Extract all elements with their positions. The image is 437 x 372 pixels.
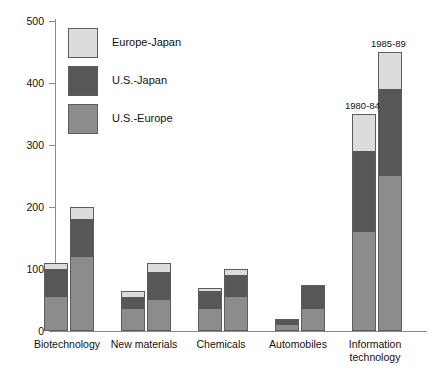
segment-us-japan bbox=[44, 269, 68, 297]
x-label-information-technology: Information technology bbox=[330, 338, 420, 363]
bar-chemicals-1985-89 bbox=[224, 269, 248, 331]
segment-us-japan bbox=[224, 275, 248, 297]
segment-us-japan bbox=[352, 151, 376, 232]
segment-us-europe bbox=[301, 309, 325, 331]
legend-swatch-europe-japan bbox=[68, 28, 98, 58]
bar-automobiles-1980-84 bbox=[275, 319, 299, 331]
y-tick-300 bbox=[49, 145, 55, 146]
segment-us-europe bbox=[275, 325, 299, 331]
segment-europe-japan bbox=[378, 52, 402, 89]
bar-chemicals-1980-84 bbox=[198, 288, 222, 331]
segment-us-europe bbox=[224, 297, 248, 331]
y-tick-200 bbox=[49, 207, 55, 208]
segment-europe-japan bbox=[352, 114, 376, 151]
bar-information-technology-1985-89 bbox=[378, 52, 402, 331]
segment-us-europe bbox=[121, 309, 145, 331]
segment-us-japan bbox=[301, 285, 325, 310]
y-tick-label-0: 0 bbox=[14, 326, 44, 337]
bar-chart: 500 400 300 200 100 0 bbox=[0, 0, 437, 372]
bar-automobiles-1985-89 bbox=[301, 285, 325, 332]
y-tick-400 bbox=[49, 83, 55, 84]
annotation-1980-84: 1980-84 bbox=[345, 100, 380, 111]
segment-us-japan bbox=[121, 297, 145, 309]
bar-new-materials-1985-89 bbox=[147, 263, 171, 331]
segment-us-europe bbox=[70, 257, 94, 331]
segment-us-europe bbox=[198, 309, 222, 331]
y-tick-0 bbox=[49, 331, 55, 332]
bar-biotechnology-1985-89 bbox=[70, 207, 94, 331]
bar-biotechnology-1980-84 bbox=[44, 263, 68, 331]
segment-us-europe bbox=[44, 297, 68, 331]
y-tick-label-200: 200 bbox=[14, 202, 44, 213]
segment-us-europe bbox=[378, 176, 402, 331]
legend-swatch-us-japan bbox=[68, 66, 98, 96]
segment-us-japan bbox=[147, 272, 171, 300]
y-tick-label-400: 400 bbox=[14, 78, 44, 89]
legend-label-us-japan: U.S.-Japan bbox=[112, 74, 167, 86]
segment-us-japan bbox=[378, 89, 402, 176]
y-tick-label-300: 300 bbox=[14, 140, 44, 151]
y-tick-label-500: 500 bbox=[14, 16, 44, 27]
segment-us-japan bbox=[198, 291, 222, 310]
segment-europe-japan bbox=[147, 263, 171, 272]
legend-label-europe-japan: Europe-Japan bbox=[112, 36, 181, 48]
segment-europe-japan bbox=[70, 207, 94, 219]
y-tick-500 bbox=[49, 21, 55, 22]
segment-us-europe bbox=[352, 232, 376, 331]
bar-new-materials-1980-84 bbox=[121, 291, 145, 331]
bar-information-technology-1980-84 bbox=[352, 114, 376, 331]
segment-us-japan bbox=[70, 219, 94, 256]
annotation-1985-89: 1985-89 bbox=[371, 38, 406, 49]
legend-swatch-us-europe bbox=[68, 104, 98, 134]
segment-us-europe bbox=[147, 300, 171, 331]
y-tick-label-100: 100 bbox=[14, 264, 44, 275]
legend-label-us-europe: U.S.-Europe bbox=[112, 112, 173, 124]
x-axis-line bbox=[55, 331, 427, 332]
